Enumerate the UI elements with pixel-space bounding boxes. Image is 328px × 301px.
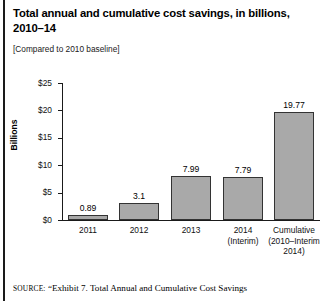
x-axis-category-label: 2012 xyxy=(109,225,169,236)
bar-value-label: 0.89 xyxy=(58,203,118,213)
category-label-line: 2013 xyxy=(161,225,221,236)
bar-value-label: 3.1 xyxy=(109,191,169,201)
bar xyxy=(223,177,263,220)
source-text: “Exhibit 7. Total Annual and Cumulative … xyxy=(48,283,247,293)
y-axis-tick-mark xyxy=(58,193,62,194)
y-axis-tick-label: $10 xyxy=(26,160,52,170)
x-axis-category-label: Cumulative(2010–Interim2014) xyxy=(264,225,324,257)
category-label-line: 2012 xyxy=(109,225,169,236)
x-axis-line xyxy=(62,220,320,221)
y-axis-line xyxy=(62,83,63,221)
y-axis-tick-mark xyxy=(58,165,62,166)
y-axis-tick-label: $15 xyxy=(26,132,52,142)
y-axis-tick-label: $5 xyxy=(26,187,52,197)
bar xyxy=(171,176,211,220)
y-axis-tick-mark xyxy=(58,110,62,111)
category-label-line: Cumulative xyxy=(264,225,324,236)
plot-area: Billions $0$5$10$15$20$250.8920113.12012… xyxy=(0,0,328,301)
y-axis-tick-mark xyxy=(58,138,62,139)
x-axis-category-label: 2013 xyxy=(161,225,221,236)
chart-figure: Total annual and cumulative cost savings… xyxy=(0,0,328,301)
y-axis-label: Billions xyxy=(9,105,19,165)
bar xyxy=(274,112,314,220)
source-note: SOURCE: “Exhibit 7. Total Annual and Cum… xyxy=(13,283,325,293)
bar xyxy=(68,215,108,220)
y-axis-tick-label: $20 xyxy=(26,105,52,115)
category-label-line: 2014) xyxy=(264,246,324,257)
bar xyxy=(119,203,159,220)
y-axis-tick-label: $25 xyxy=(26,78,52,88)
source-prefix: SOURCE: xyxy=(13,284,46,293)
y-axis-tick-label: $0 xyxy=(26,215,52,225)
y-axis-tick-mark xyxy=(58,220,62,221)
y-axis-tick-mark xyxy=(58,83,62,84)
bar-value-label: 19.77 xyxy=(264,100,324,110)
bar-value-label: 7.99 xyxy=(161,164,221,174)
category-label-line: (2010–Interim xyxy=(264,236,324,247)
bar-value-label: 7.79 xyxy=(213,165,273,175)
